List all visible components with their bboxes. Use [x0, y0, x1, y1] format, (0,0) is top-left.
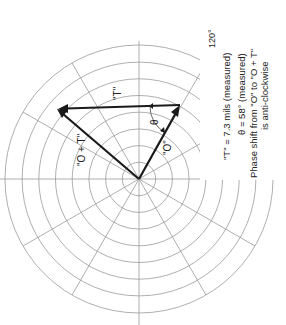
vector-o-plus-t-label: "O + T": [76, 133, 87, 166]
annotation-line-3: Phase shift from "O" to "O + T": [248, 49, 259, 178]
annotation-line-1: "T" = 7.3 mils (measured): [221, 53, 232, 160]
theta-label: θ: [149, 119, 160, 125]
polar-vector-diagram: 120° θ "T" "O" "O + T" "T" = 7.3 mils (m…: [0, 0, 286, 325]
annotation-line-2: θ = 58° (measured): [236, 53, 247, 135]
vector-t-label: "T": [112, 86, 123, 100]
vector-t: [66, 105, 180, 109]
angle-label-120: 120°: [207, 29, 217, 48]
grid-spokes: [0, 41, 273, 325]
vector-o-arrowhead: [171, 105, 180, 117]
theta-arc: [150, 106, 164, 132]
annotation-line-4: is anti-clockwise: [259, 61, 270, 130]
polar-grid: [0, 41, 273, 325]
vector-o-label: "O": [162, 140, 173, 155]
theta-arc-arrow-top: [149, 103, 153, 109]
annotation-block: "T" = 7.3 mils (measured) θ = 58° (measu…: [221, 49, 270, 178]
